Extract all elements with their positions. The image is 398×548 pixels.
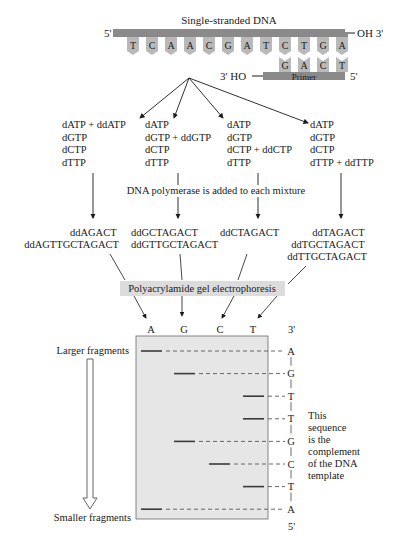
svg-text:T: T <box>288 391 295 402</box>
svg-text:G: G <box>287 368 295 379</box>
mixture-t: dATP dGTP dCTP dTTP + ddTTP <box>310 119 374 168</box>
primer-bases: GACT <box>279 57 348 72</box>
template-strand: Single-stranded DNA 5' OH 3' TCAACGATCTG… <box>104 14 383 55</box>
svg-text:C: C <box>149 40 156 51</box>
sanger-sequencing-diagram: Single-stranded DNA 5' OH 3' TCAACGATCTG… <box>0 0 398 548</box>
polymerase-note: DNA polymerase is added to each mixture <box>127 185 306 196</box>
svg-text:C: C <box>320 60 327 71</box>
template-title: Single-stranded DNA <box>181 14 277 26</box>
svg-text:G: G <box>319 40 326 51</box>
template-base: G <box>222 34 234 55</box>
gel-top-end: 3' <box>288 324 295 335</box>
svg-text:A: A <box>243 40 251 51</box>
svg-text:G: G <box>287 436 295 447</box>
products-g: ddGCTAGACT ddGTTGCTAGACT <box>131 227 219 250</box>
svg-text:A: A <box>338 40 346 51</box>
svg-text:C: C <box>206 40 213 51</box>
template-base: C <box>279 34 291 55</box>
template-base: C <box>203 34 215 55</box>
template-base: C <box>146 34 158 55</box>
svg-text:T: T <box>263 40 269 51</box>
lane-label-a: A <box>147 324 155 335</box>
svg-text:C: C <box>287 459 294 470</box>
svg-text:A: A <box>287 346 295 357</box>
mixtures: dATP + ddATP dGTP dCTP dTTP dATP dGTP + … <box>62 119 374 168</box>
gel-bottom-end: 5' <box>288 521 295 532</box>
mixture-g: dATP dGTP + ddGTP dCTP dTTP <box>145 119 213 168</box>
template-base: A <box>184 34 196 55</box>
complement-note: This sequence is the complement of the D… <box>308 410 363 481</box>
svg-text:A: A <box>287 504 295 515</box>
svg-text:T: T <box>301 40 307 51</box>
size-direction-arrow <box>83 359 97 509</box>
product-lines <box>110 254 306 284</box>
svg-text:G: G <box>281 60 288 71</box>
svg-text:C: C <box>282 40 289 51</box>
primer-3prime: 3' HO <box>220 70 246 82</box>
svg-text:T: T <box>130 40 136 51</box>
primer-base: T <box>336 57 348 72</box>
template-base: T <box>298 34 310 55</box>
template-3prime: OH 3' <box>357 27 383 39</box>
lane-label-c: C <box>216 324 223 335</box>
svg-text:T: T <box>288 413 295 424</box>
svg-text:T: T <box>288 481 295 492</box>
template-base: T <box>260 34 272 55</box>
template-bases: TCAACGATCTGA <box>127 34 348 55</box>
mixture-c: dATP dGTP dCTP + ddCTP dTTP <box>227 119 294 168</box>
primer-5prime: 5' <box>350 70 358 82</box>
template-base: T <box>127 34 139 55</box>
products-a: ddAGACT ddAGTTGCTAGACT <box>24 227 119 250</box>
products-t: ddTAGACT ddTGCTAGACT ddTTGCTAGACT <box>287 227 367 262</box>
lane-label-t: T <box>250 324 257 335</box>
gel: A G C T 3' AGTTGCTA 5' Larger fragments … <box>54 324 363 532</box>
products-c: ddCTAGACT <box>220 227 280 238</box>
mixture-a: dATP + ddATP dGTP dCTP dTTP <box>62 119 128 168</box>
template-5prime: 5' <box>104 27 112 39</box>
svg-text:A: A <box>186 40 194 51</box>
smaller-fragments-label: Smaller fragments <box>54 512 131 523</box>
primer-label: Primer <box>292 72 317 82</box>
svg-text:G: G <box>224 40 231 51</box>
primer-base: G <box>279 57 291 72</box>
template-base: A <box>165 34 177 55</box>
template-base: A <box>336 34 348 55</box>
svg-text:T: T <box>339 60 345 71</box>
products: ddAGACT ddAGTTGCTAGACT ddGCTAGACT ddGTTG… <box>24 227 367 262</box>
larger-fragments-label: Larger fragments <box>57 345 129 356</box>
template-base: A <box>241 34 253 55</box>
gel-slab <box>136 336 268 519</box>
svg-text:A: A <box>300 60 308 71</box>
primer-base: C <box>317 57 329 72</box>
lane-label-g: G <box>180 324 188 335</box>
electrophoresis-label: Polyacrylamide gel electrophoresis <box>128 283 276 294</box>
primer: GACT 3' HO Primer 5' <box>220 57 358 82</box>
template-base: G <box>317 34 329 55</box>
primer-base: A <box>298 57 310 72</box>
branch-arrows <box>140 78 308 123</box>
lane-arrows <box>134 296 277 318</box>
svg-text:A: A <box>167 40 175 51</box>
